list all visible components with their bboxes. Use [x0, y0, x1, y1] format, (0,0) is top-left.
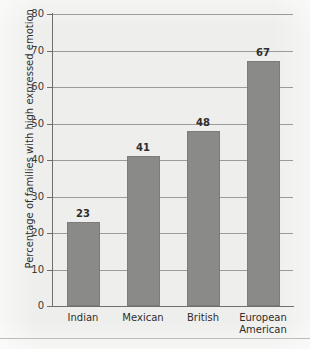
y-tick-label: 40 — [16, 155, 44, 165]
y-tick-label: 0 — [16, 301, 44, 311]
bar-value-label: 41 — [115, 143, 171, 153]
gridline — [53, 14, 293, 15]
y-tick-label: 10 — [16, 265, 44, 275]
x-category-label: British — [170, 312, 236, 324]
bar — [187, 131, 220, 306]
bar — [247, 61, 280, 306]
x-category-label: EuropeanAmerican — [230, 312, 296, 335]
chart-figure: Percentage of families with high express… — [0, 0, 310, 349]
bar-value-label: 67 — [235, 48, 291, 58]
x-category-label: Mexican — [110, 312, 176, 324]
y-axis-line — [52, 13, 53, 307]
bar — [67, 222, 100, 306]
x-axis-line — [52, 306, 294, 307]
bar-value-label: 23 — [55, 209, 111, 219]
y-tick-label: 50 — [16, 119, 44, 129]
x-category-label: Indian — [50, 312, 116, 324]
y-tick-label: 20 — [16, 228, 44, 238]
y-tick-label: 30 — [16, 192, 44, 202]
page-bottom-rule — [0, 338, 310, 339]
bar — [127, 156, 160, 306]
y-tick-label: 80 — [16, 9, 44, 19]
y-tick-label: 70 — [16, 46, 44, 56]
bar-value-label: 48 — [175, 118, 231, 128]
y-tick-label: 60 — [16, 82, 44, 92]
